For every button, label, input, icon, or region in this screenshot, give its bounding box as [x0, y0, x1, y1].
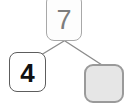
node-left-value: 4 — [20, 60, 34, 86]
edge-root-to-left-child — [41, 41, 64, 55]
node-right-part-blank[interactable] — [84, 64, 124, 103]
edge-root-to-right-child — [65, 41, 102, 65]
node-root-total[interactable]: 7 — [46, 0, 82, 41]
number-bond-diagram: 7 4 — [0, 0, 133, 107]
node-root-value: 7 — [56, 7, 71, 34]
node-left-part[interactable]: 4 — [9, 52, 46, 92]
